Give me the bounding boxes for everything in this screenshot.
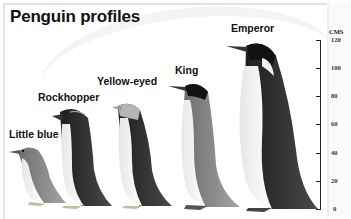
tick-label-0: 0 bbox=[333, 205, 336, 212]
tick-label-60: 60 bbox=[331, 120, 338, 127]
tick-label-100: 100 bbox=[331, 64, 341, 71]
penguin-yellow-eyed bbox=[112, 104, 172, 209]
label-rockhopper: Rockhopper bbox=[38, 91, 99, 103]
label-emperor: Emperor bbox=[231, 22, 274, 34]
tick-120 bbox=[316, 40, 321, 41]
tick-label-80: 80 bbox=[331, 92, 338, 99]
tick-100 bbox=[316, 68, 321, 69]
tick-20 bbox=[316, 181, 321, 182]
scale-unit-label: CMS bbox=[329, 28, 343, 35]
tick-label-40: 40 bbox=[331, 149, 338, 156]
label-little-blue: Little blue bbox=[9, 128, 59, 140]
scale-axis bbox=[320, 40, 321, 210]
tick-0 bbox=[316, 209, 321, 210]
penguin-rockhopper bbox=[52, 109, 112, 209]
label-king: King bbox=[175, 64, 198, 76]
tick-label-120: 120 bbox=[331, 36, 341, 43]
tick-80 bbox=[316, 96, 321, 97]
penguin-king bbox=[168, 84, 240, 210]
tick-label-20: 20 bbox=[331, 177, 338, 184]
penguin-little-blue bbox=[9, 147, 66, 206]
label-yellow-eyed: Yellow-eyed bbox=[97, 75, 157, 87]
penguin-emperor bbox=[226, 44, 318, 212]
tick-60 bbox=[316, 124, 321, 125]
tick-40 bbox=[316, 153, 321, 154]
